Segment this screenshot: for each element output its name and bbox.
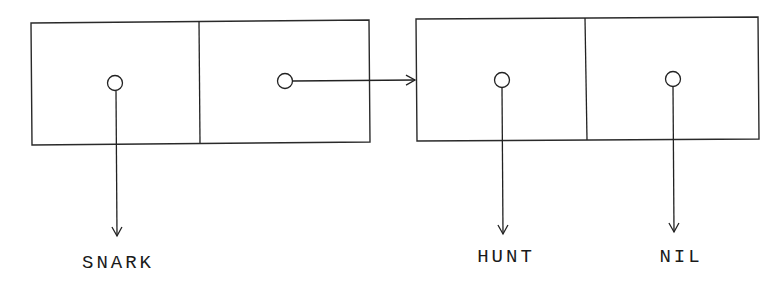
label-nil: NIL bbox=[659, 246, 702, 268]
cons-cell-2-outline bbox=[416, 17, 759, 141]
pointer-dot-icon bbox=[666, 72, 681, 87]
pointer-dot-icon bbox=[495, 73, 510, 88]
cons-cell-2 bbox=[416, 17, 759, 141]
pointer-dot-icon bbox=[108, 76, 123, 91]
cons-cell-1 bbox=[31, 20, 370, 145]
pointer-dot-icon bbox=[278, 74, 293, 89]
linked-list-diagram bbox=[0, 0, 780, 287]
label-hunt: HUNT bbox=[477, 246, 535, 268]
label-snark: SNARK bbox=[82, 252, 154, 274]
